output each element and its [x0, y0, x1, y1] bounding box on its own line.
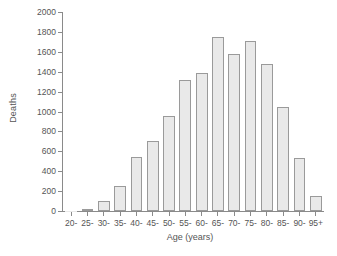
- x-tick-mark: [169, 212, 170, 216]
- y-tick-mark: [58, 151, 62, 152]
- y-tick-mark: [58, 32, 62, 33]
- x-tick-label: 85-: [277, 218, 289, 228]
- x-tick-mark: [299, 212, 300, 216]
- x-tick-group: 35-: [112, 212, 128, 232]
- y-tick-mark: [58, 72, 62, 73]
- x-tick-group: 95+: [308, 212, 324, 232]
- x-tick-label: 70-: [228, 218, 240, 228]
- x-tick-group: 30-: [96, 212, 112, 232]
- x-tick-mark: [71, 212, 72, 216]
- bar-slot: [194, 12, 210, 211]
- bar: [228, 54, 240, 211]
- x-tick-group: 20-: [63, 212, 79, 232]
- x-tick-label: 55-: [179, 218, 191, 228]
- bar: [277, 107, 289, 211]
- x-tick-group: 90-: [291, 212, 307, 232]
- bar-slot: [275, 12, 291, 211]
- deaths-by-age-histogram: Deaths 020040060080010001200140016001800…: [0, 0, 337, 256]
- y-tick-label: 1800: [37, 27, 56, 37]
- bar: [196, 73, 208, 211]
- bar-slot: [210, 12, 226, 211]
- x-tick-label: 60-: [196, 218, 208, 228]
- y-tick-mark: [58, 131, 62, 132]
- y-tick-mark: [58, 191, 62, 192]
- y-tick-label: 0: [51, 206, 56, 216]
- x-tick-mark: [266, 212, 267, 216]
- bar-slot: [259, 12, 275, 211]
- x-tick-mark: [185, 212, 186, 216]
- x-axis-title-label: Age (years): [167, 232, 214, 242]
- y-tick-mark: [58, 52, 62, 53]
- x-tick-group: 75-: [242, 212, 258, 232]
- y-tick-label: 1200: [37, 87, 56, 97]
- bar-slot: [177, 12, 193, 211]
- bar-slot: [96, 12, 112, 211]
- bar-slot: [112, 12, 128, 211]
- bar: [179, 80, 191, 211]
- bar-slot: [63, 12, 79, 211]
- x-tick-mark: [136, 212, 137, 216]
- x-tick-mark: [250, 212, 251, 216]
- x-tick-label: 40-: [130, 218, 142, 228]
- bar: [131, 157, 143, 211]
- y-tick-mark: [58, 12, 62, 13]
- x-tick-group: 60-: [194, 212, 210, 232]
- bar: [294, 158, 306, 211]
- y-axis-title: Deaths: [2, 0, 24, 215]
- bar-slot: [161, 12, 177, 211]
- x-tick-label: 80-: [261, 218, 273, 228]
- y-axis-title-label: Deaths: [8, 93, 18, 123]
- x-tick-mark: [103, 212, 104, 216]
- y-tick-label: 400: [42, 166, 56, 176]
- x-tick-label: 75-: [244, 218, 256, 228]
- bar: [82, 209, 94, 211]
- plot-area: 0200400600800100012001400160018002000 20…: [62, 12, 324, 212]
- y-tick-label: 2000: [37, 7, 56, 17]
- x-tick-mark: [152, 212, 153, 216]
- y-tick-label: 1600: [37, 47, 56, 57]
- x-tick-label: 45-: [147, 218, 159, 228]
- y-tick-label: 1400: [37, 67, 56, 77]
- x-tick-mark: [315, 212, 316, 216]
- x-tick-group: 45-: [145, 212, 161, 232]
- x-tick-label: 25-: [81, 218, 93, 228]
- y-tick-mark: [58, 112, 62, 113]
- bar-slot: [145, 12, 161, 211]
- bar: [98, 201, 110, 211]
- x-tick-group: 70-: [226, 212, 242, 232]
- bar-slot: [79, 12, 95, 211]
- x-tick-label: 35-: [114, 218, 126, 228]
- y-tick-label: 200: [42, 186, 56, 196]
- x-tick-group: 50-: [161, 212, 177, 232]
- y-tick-mark: [58, 92, 62, 93]
- x-tick-group: 85-: [275, 212, 291, 232]
- bar: [245, 41, 257, 211]
- x-tick-label: 95+: [309, 218, 323, 228]
- x-tick-mark: [87, 212, 88, 216]
- bar: [147, 141, 159, 211]
- x-tick-group: 80-: [259, 212, 275, 232]
- bar: [261, 64, 273, 211]
- x-tick-label: 50-: [163, 218, 175, 228]
- x-tick-group: 65-: [210, 212, 226, 232]
- bar-slot: [226, 12, 242, 211]
- bar-slot: [128, 12, 144, 211]
- y-tick-label: 600: [42, 146, 56, 156]
- y-tick-label: 1000: [37, 107, 56, 117]
- y-tick-mark: [58, 211, 62, 212]
- y-tick-mark: [58, 171, 62, 172]
- bar-slot: [242, 12, 258, 211]
- y-tick-label: 800: [42, 126, 56, 136]
- x-tick-label: 90-: [293, 218, 305, 228]
- x-tick-label: 20-: [65, 218, 77, 228]
- bar-slot: [291, 12, 307, 211]
- x-tick-label: 30-: [98, 218, 110, 228]
- x-tick-group: 25-: [79, 212, 95, 232]
- x-tick-mark: [283, 212, 284, 216]
- x-axis-ticks: 20-25-30-35-40-45-50-55-60-65-70-75-80-8…: [63, 212, 324, 232]
- bar: [163, 116, 175, 211]
- x-tick-group: 40-: [128, 212, 144, 232]
- bar: [212, 37, 224, 211]
- bar: [310, 196, 322, 211]
- x-tick-group: 55-: [177, 212, 193, 232]
